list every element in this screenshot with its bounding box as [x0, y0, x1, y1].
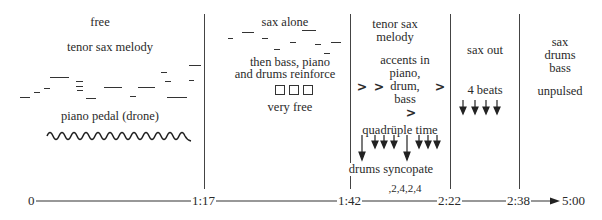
four-beats-arrows: [460, 100, 500, 114]
tick-0: 0: [27, 194, 36, 208]
timeline-arrow-icon: [550, 198, 560, 205]
tick-1-42: 1:42: [337, 194, 362, 208]
quadruple-time-arrows: [359, 135, 440, 160]
tick-1-17: 1:17: [191, 194, 216, 208]
tick-2-38: 2:38: [506, 194, 531, 208]
tick-2-22: 2:22: [437, 194, 462, 208]
diagram-graphics: [0, 0, 602, 220]
drone-wave-icon: [47, 133, 191, 142]
tick-5-00: 5:00: [561, 194, 586, 208]
